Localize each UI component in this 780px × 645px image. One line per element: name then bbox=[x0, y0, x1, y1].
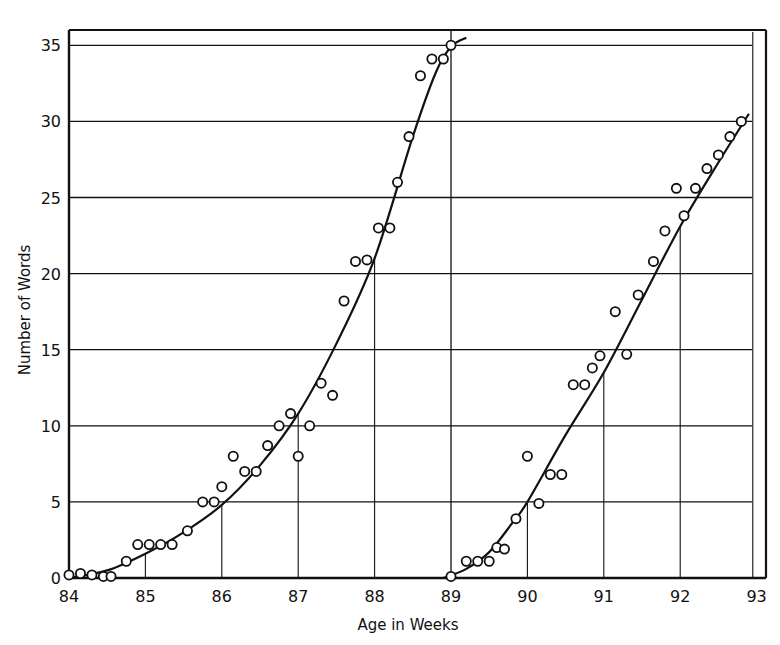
data-point bbox=[351, 257, 360, 266]
data-point bbox=[427, 54, 436, 63]
data-point bbox=[252, 467, 261, 476]
data-point bbox=[546, 470, 555, 479]
x-tick-89: 89 bbox=[441, 587, 461, 606]
chart-svg: 05101520253035 84858687888990919293 Age … bbox=[0, 0, 780, 645]
x-tick-88: 88 bbox=[364, 587, 384, 606]
data-point bbox=[588, 363, 597, 372]
x-tick-84: 84 bbox=[59, 587, 79, 606]
x-tick-85: 85 bbox=[135, 587, 155, 606]
data-point bbox=[133, 540, 142, 549]
data-point bbox=[240, 467, 249, 476]
data-point bbox=[374, 223, 383, 232]
data-point bbox=[76, 569, 85, 578]
data-point bbox=[446, 572, 455, 581]
data-point bbox=[328, 391, 337, 400]
x-tick-92: 92 bbox=[670, 587, 690, 606]
data-point bbox=[275, 421, 284, 430]
data-point bbox=[446, 41, 455, 50]
data-point bbox=[557, 470, 566, 479]
data-point bbox=[500, 544, 509, 553]
data-point bbox=[622, 350, 631, 359]
data-point bbox=[511, 514, 520, 523]
chart-container: 05101520253035 84858687888990919293 Age … bbox=[0, 0, 780, 645]
data-point bbox=[534, 499, 543, 508]
data-point bbox=[523, 452, 532, 461]
y-tick-5: 5 bbox=[51, 493, 61, 512]
data-point bbox=[168, 540, 177, 549]
data-point bbox=[416, 71, 425, 80]
x-tick-87: 87 bbox=[288, 587, 308, 606]
x-tick-90: 90 bbox=[517, 587, 537, 606]
data-point bbox=[106, 572, 115, 581]
data-point bbox=[679, 211, 688, 220]
y-axis-label: Number of Words bbox=[16, 245, 34, 376]
y-tick-25: 25 bbox=[41, 189, 61, 208]
data-point bbox=[580, 380, 589, 389]
data-point bbox=[634, 290, 643, 299]
data-point bbox=[64, 570, 73, 579]
grid-lines bbox=[69, 45, 752, 502]
data-point bbox=[305, 421, 314, 430]
x-axis-label: Age in Weeks bbox=[357, 616, 458, 634]
data-point bbox=[473, 557, 482, 566]
drop-lines bbox=[145, 226, 680, 578]
data-point bbox=[317, 379, 326, 388]
data-point bbox=[217, 482, 226, 491]
x-tick-93: 93 bbox=[746, 587, 766, 606]
data-point bbox=[183, 526, 192, 535]
data-point bbox=[737, 117, 746, 126]
data-point bbox=[87, 570, 96, 579]
y-tick-15: 15 bbox=[41, 341, 61, 360]
data-point bbox=[725, 132, 734, 141]
data-point bbox=[485, 557, 494, 566]
data-point bbox=[198, 497, 207, 506]
data-point bbox=[660, 226, 669, 235]
data-point bbox=[263, 441, 272, 450]
y-tick-30: 30 bbox=[41, 112, 61, 131]
y-tick-35: 35 bbox=[41, 36, 61, 55]
data-point bbox=[595, 351, 604, 360]
data-point bbox=[286, 409, 295, 418]
fitted-curve-2 bbox=[443, 114, 749, 578]
data-point bbox=[714, 150, 723, 159]
fitted-curve-1 bbox=[69, 38, 466, 578]
data-point bbox=[210, 497, 219, 506]
data-point bbox=[649, 257, 658, 266]
x-tick-86: 86 bbox=[212, 587, 232, 606]
data-point bbox=[229, 452, 238, 461]
data-point bbox=[393, 178, 402, 187]
data-point bbox=[611, 307, 620, 316]
data-point bbox=[362, 255, 371, 264]
y-axis-tick-labels: 05101520253035 bbox=[41, 36, 61, 588]
x-tick-91: 91 bbox=[594, 587, 614, 606]
data-point bbox=[672, 184, 681, 193]
data-point bbox=[385, 223, 394, 232]
data-point bbox=[691, 184, 700, 193]
y-tick-20: 20 bbox=[41, 265, 61, 284]
data-point bbox=[294, 452, 303, 461]
data-point bbox=[156, 540, 165, 549]
data-point bbox=[145, 540, 154, 549]
data-point bbox=[122, 557, 131, 566]
data-point bbox=[339, 296, 348, 305]
data-point bbox=[404, 132, 413, 141]
plot-frame bbox=[69, 30, 766, 578]
fitted-curves bbox=[69, 38, 749, 578]
y-tick-0: 0 bbox=[51, 569, 61, 588]
data-point bbox=[569, 380, 578, 389]
data-point bbox=[462, 557, 471, 566]
data-point bbox=[439, 54, 448, 63]
x-axis-tick-labels: 84858687888990919293 bbox=[59, 587, 767, 606]
y-tick-10: 10 bbox=[41, 417, 61, 436]
data-point bbox=[702, 164, 711, 173]
